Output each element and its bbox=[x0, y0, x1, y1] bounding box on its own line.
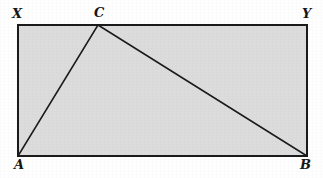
vertex-label-b: B bbox=[300, 158, 311, 171]
figure-canvas: X C Y A B bbox=[0, 0, 323, 178]
rectangle-XABY bbox=[18, 25, 307, 156]
vertex-label-a: A bbox=[14, 158, 24, 171]
geometry-figure bbox=[0, 0, 323, 178]
vertex-label-y: Y bbox=[302, 7, 311, 20]
vertex-label-c: C bbox=[94, 6, 104, 19]
vertex-label-x: X bbox=[12, 7, 22, 20]
